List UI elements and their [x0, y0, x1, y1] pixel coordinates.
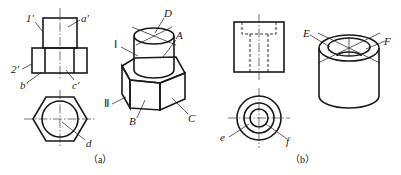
label-I: Ⅰ: [114, 38, 117, 50]
leader-aprime: [68, 20, 80, 27]
panel-b-front-view: [234, 14, 284, 80]
label-aprime: a′: [81, 12, 90, 24]
leader-1prime: [35, 22, 43, 32]
caption-a: （a）: [88, 154, 112, 165]
caption-b: （b）: [290, 154, 315, 165]
label-cprime: c′: [72, 79, 80, 91]
panel-a-isometric-view: D Ⅰ A Ⅱ B C: [104, 7, 196, 127]
hidden-line-right: [268, 22, 276, 72]
hidden-line-left: [242, 22, 250, 72]
label-B: B: [129, 115, 136, 127]
hex-prism-outline: [32, 48, 87, 73]
label-bprime: b′: [20, 79, 29, 91]
leader-I: [121, 47, 138, 56]
label-F: F: [383, 35, 391, 47]
leader-II: [112, 97, 126, 104]
hex-face-C: [160, 73, 185, 110]
label-D: D: [163, 7, 172, 19]
leader-2prime: [22, 64, 32, 69]
leader-D: [155, 18, 164, 33]
hex-top-face: [122, 57, 185, 83]
label-C: C: [188, 112, 196, 124]
panel-a: 1′ a′ 2′ b′ c′ d: [11, 7, 196, 165]
hex-face-II: [122, 66, 130, 108]
panel-b: e f E F （b）: [220, 14, 391, 165]
panel-b-top-view: e f: [220, 88, 291, 148]
technical-drawing: 1′ a′ 2′ b′ c′ d: [0, 0, 401, 175]
label-II: Ⅱ: [104, 97, 109, 109]
panel-a-top-view: d: [24, 90, 96, 149]
panel-a-front-view: 1′ a′ 2′ b′ c′: [11, 8, 90, 91]
leader-d: [62, 122, 85, 140]
label-e: e: [220, 131, 225, 143]
label-d: d: [86, 137, 92, 149]
hex-face-B: [130, 80, 160, 110]
label-E: E: [302, 27, 310, 39]
label-A: A: [175, 29, 183, 41]
label-2prime: 2′: [11, 63, 20, 75]
label-f: f: [286, 135, 291, 147]
label-1prime: 1′: [26, 12, 35, 24]
panel-b-isometric-view: E F: [302, 27, 391, 108]
